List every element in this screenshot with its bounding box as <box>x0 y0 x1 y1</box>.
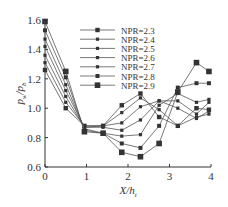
x-tick-label: 1 <box>84 170 90 182</box>
y-tick-label: 1.2 <box>27 73 41 85</box>
y-tick-label: 0.6 <box>27 161 41 173</box>
x-tick-label: 3 <box>167 170 173 182</box>
legend-item: NPR=2.9 <box>80 81 155 91</box>
x-tick-label: 0 <box>42 170 48 182</box>
x-tick-label: 2 <box>125 170 131 182</box>
y-tick-label: 1.6 <box>27 14 41 26</box>
legend: NPR=2.3NPR=2.4NPR=2.5NPR=2.6NPR=2.7NPR=2… <box>80 26 155 91</box>
line-chart: 012340.60.81.01.21.41.6X/htpw/pb NPR=2.3… <box>0 0 228 207</box>
legend-label: NPR=2.9 <box>121 81 155 91</box>
y-tick-label: 1.4 <box>27 43 41 55</box>
axes: 012340.60.81.01.21.41.6X/htpw/pb <box>13 14 214 199</box>
y-tick-label: 1.0 <box>27 102 41 114</box>
x-axis-label: X/ht <box>118 184 137 199</box>
y-tick-label: 0.8 <box>27 132 41 144</box>
x-tick-label: 4 <box>208 170 214 182</box>
y-axis-label: pw/pb <box>13 82 28 106</box>
